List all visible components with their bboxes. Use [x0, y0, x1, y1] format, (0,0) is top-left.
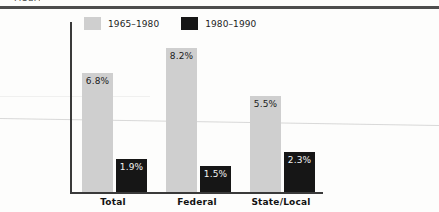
scanned-page: Figure 1965–1980 1980–1990 6.8% 1.9% — [0, 0, 439, 212]
caption-remnant-text: Figure — [14, 0, 40, 1]
plot-area: 6.8% 1.9% 8.2% 1.5% 5.5% 2.3% — [71, 22, 323, 192]
bar-value-state-local-1980-1990: 2.3% — [284, 155, 315, 165]
bar-group-state-local: 5.5% 2.3% — [239, 22, 323, 192]
category-label-state-local: State/Local — [239, 197, 323, 207]
bar-value-total-1965-1980: 6.8% — [82, 76, 113, 86]
bar-total-1980-1990: 1.9% — [116, 159, 147, 192]
bar-group-federal: 8.2% 1.5% — [155, 22, 239, 192]
category-label-federal: Federal — [155, 197, 239, 207]
bar-value-federal-1965-1980: 8.2% — [166, 51, 197, 61]
bar-value-total-1980-1990: 1.9% — [116, 162, 147, 172]
x-axis-category-labels: Total Federal State/Local — [71, 197, 323, 211]
bar-federal-1980-1990: 1.5% — [200, 166, 231, 192]
bar-federal-1965-1980: 8.2% — [166, 48, 197, 192]
bar-state-local-1980-1990: 2.3% — [284, 152, 315, 192]
x-axis-line — [70, 192, 323, 194]
bar-value-federal-1980-1990: 1.5% — [200, 169, 231, 179]
bar-total-1965-1980: 6.8% — [82, 73, 113, 192]
bar-value-state-local-1965-1980: 5.5% — [250, 99, 281, 109]
category-label-total: Total — [71, 197, 155, 207]
bar-group-total: 6.8% 1.9% — [71, 22, 155, 192]
bar-state-local-1965-1980: 5.5% — [250, 96, 281, 192]
bar-chart: 1965–1980 1980–1990 6.8% 1.9% 8.2% — [0, 6, 439, 212]
